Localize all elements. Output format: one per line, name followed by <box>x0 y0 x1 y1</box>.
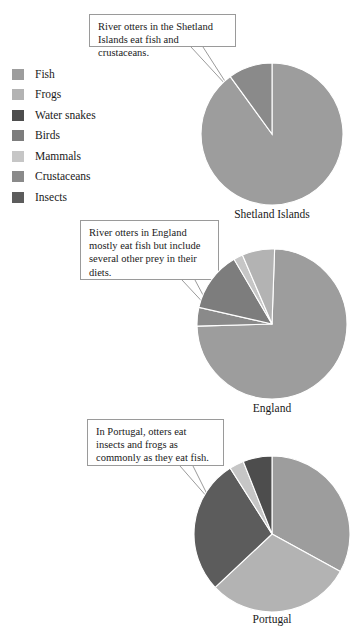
legend-label-fish: Fish <box>35 69 55 81</box>
legend-item-fish: Fish <box>12 64 96 85</box>
chart-england: England <box>196 248 348 428</box>
callout-shetland-text: River otters in the Shetland Islands eat… <box>98 21 213 58</box>
callout-england-text: River otters in England mostly eat fish … <box>89 227 200 278</box>
legend-swatch-mammals <box>12 151 24 162</box>
pie-england <box>196 248 348 400</box>
legend-item-insects: Insects <box>12 187 96 208</box>
legend-label-crustaceans: Crustaceans <box>35 171 91 183</box>
figure-root: FishFrogsWater snakesBirdsMammalsCrustac… <box>0 0 359 639</box>
legend-item-mammals: Mammals <box>12 146 96 167</box>
legend-swatch-water-snakes <box>12 110 24 121</box>
legend-label-water-snakes: Water snakes <box>35 110 96 122</box>
legend-label-frogs: Frogs <box>35 89 61 101</box>
legend-item-crustaceans: Crustaceans <box>12 167 96 188</box>
callout-shetland: River otters in the Shetland Islands eat… <box>89 14 236 47</box>
legend-swatch-frogs <box>12 89 24 100</box>
legend-item-frogs: Frogs <box>12 85 96 106</box>
legend-swatch-fish <box>12 69 24 80</box>
legend-item-water-snakes: Water snakes <box>12 105 96 126</box>
chart-england-label: England <box>196 402 348 414</box>
legend-swatch-crustaceans <box>12 171 24 182</box>
legend-swatch-insects <box>12 192 24 203</box>
legend-label-insects: Insects <box>35 192 67 204</box>
legend-label-birds: Birds <box>35 130 60 142</box>
chart-portugal-label: Portugal <box>193 613 351 625</box>
chart-shetland-label: Shetland Islands <box>196 208 348 220</box>
pie-portugal <box>193 455 351 613</box>
callout-portugal-text: In Portugal, otters eat insects and frog… <box>96 426 209 463</box>
chart-shetland: Shetland Islands <box>196 62 348 222</box>
legend-label-mammals: Mammals <box>35 151 81 163</box>
legend-item-birds: Birds <box>12 126 96 147</box>
legend: FishFrogsWater snakesBirdsMammalsCrustac… <box>12 64 96 208</box>
legend-swatch-birds <box>12 130 24 141</box>
pie-shetland <box>196 62 348 208</box>
chart-portugal: Portugal <box>193 455 351 639</box>
